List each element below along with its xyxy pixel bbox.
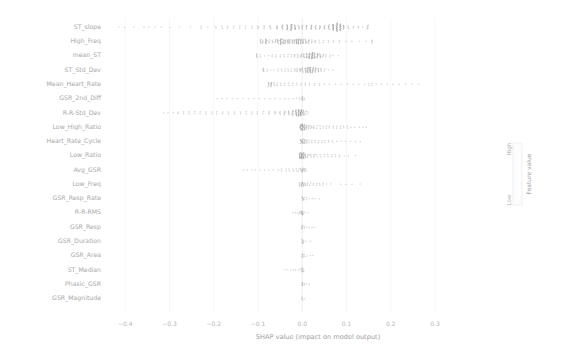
shap-point (301, 228, 303, 230)
y-axis-label-high-freq: High_Freq (70, 37, 101, 45)
shap-point (316, 154, 318, 156)
shap-point (358, 84, 360, 86)
shap-point (292, 114, 294, 116)
shap-point (309, 83, 311, 85)
x-tick-label-5: 0.1 (342, 320, 352, 327)
shap-point (310, 28, 312, 30)
shap-point (306, 199, 308, 201)
shap-point (172, 112, 174, 114)
shap-point (289, 170, 291, 172)
shap-point (194, 111, 196, 113)
shap-point (362, 127, 364, 129)
shap-point (306, 128, 308, 130)
shap-point (339, 40, 341, 42)
shap-point (319, 84, 321, 86)
shap-point (299, 97, 301, 99)
shap-point (334, 154, 336, 156)
shap-point (302, 143, 304, 145)
shap-point (308, 140, 310, 142)
shap-point (300, 115, 302, 117)
shap-point (251, 169, 253, 171)
x-tick-label-0: −0.4 (118, 320, 133, 327)
shap-point (367, 28, 369, 30)
shap-point (302, 70, 304, 72)
shap-point (313, 183, 315, 185)
shap-point (302, 213, 304, 215)
shap-point (298, 168, 300, 170)
shap-point (320, 156, 322, 158)
shap-point (194, 113, 196, 115)
shap-point (143, 27, 145, 29)
y-axis-label-heart-rate-cycle: Heart_Rate_Cycle (46, 137, 101, 145)
shap-point (302, 256, 304, 258)
y-axis-label-gsr-duration: GSR_Duration (58, 237, 101, 245)
shap-point (318, 40, 320, 42)
x-tick-label-7: 0.3 (430, 320, 440, 327)
shap-point (325, 54, 327, 56)
shap-point (289, 39, 291, 41)
shap-point (200, 27, 202, 29)
shap-point (294, 70, 296, 72)
shap-point (264, 98, 266, 100)
shap-point (368, 85, 370, 87)
shap-point (267, 86, 269, 88)
shap-point (306, 141, 308, 143)
shap-point (302, 43, 304, 45)
shap-point (306, 127, 308, 129)
shap-point (324, 154, 326, 156)
shap-point (240, 111, 242, 113)
shap-point (345, 41, 347, 43)
shap-point (288, 82, 290, 84)
shap-point (243, 169, 245, 171)
shap-point (257, 28, 259, 30)
shap-point (215, 27, 217, 29)
shap-point (306, 170, 308, 172)
y-axis-label-st-std-dev: ST_Std_Dev (65, 66, 102, 74)
shap-point (300, 171, 302, 173)
shap-point (307, 155, 309, 157)
shap-point (326, 183, 328, 185)
shap-point (304, 99, 306, 101)
shap-point (347, 25, 349, 27)
shap-point (308, 227, 310, 229)
shap-point (276, 83, 278, 85)
shap-point (305, 71, 307, 73)
shap-point (347, 83, 349, 85)
shap-point (310, 156, 312, 158)
shap-point (298, 28, 300, 30)
colorbar-title: Feature value (525, 153, 532, 194)
shap-point (310, 182, 312, 184)
shap-point (314, 83, 316, 85)
shap-point (188, 113, 190, 115)
shap-point (306, 139, 308, 141)
shap-point (304, 114, 306, 116)
shap-point (305, 43, 307, 45)
shap-point (288, 168, 290, 170)
shap-point (312, 198, 314, 200)
shap-point (336, 128, 338, 130)
shap-point (319, 83, 321, 85)
shap-point (287, 43, 289, 45)
shap-point (305, 241, 307, 243)
shap-point (285, 269, 287, 271)
shap-point (295, 168, 297, 170)
shap-point (365, 40, 367, 42)
shap-point (303, 114, 305, 116)
shap-point (366, 127, 368, 129)
shap-point (200, 25, 202, 27)
shap-point (248, 98, 250, 100)
shap-point (251, 25, 253, 27)
shap-point (310, 255, 312, 257)
shap-point (302, 129, 304, 131)
shap-point (364, 84, 366, 86)
shap-point (310, 241, 312, 243)
shap-point (331, 156, 333, 158)
shap-point (259, 98, 261, 100)
shap-point (291, 68, 293, 70)
shap-point (345, 141, 347, 143)
y-axis-label-st-slope: ST_slope (74, 23, 101, 31)
shap-point (167, 112, 169, 114)
shap-point (233, 27, 235, 29)
x-tick-label-2: −0.2 (206, 320, 221, 327)
shap-point (303, 54, 305, 56)
